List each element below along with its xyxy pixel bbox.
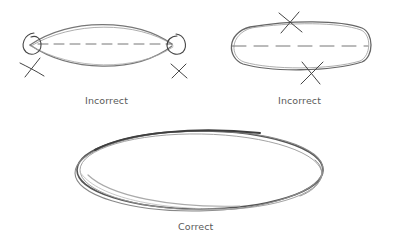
caption-incorrect-pointed: Incorrect — [85, 95, 128, 106]
panel-pointed-ends — [20, 25, 187, 78]
panel-smooth-ellipse — [74, 129, 323, 213]
x-mark-right-icon — [171, 64, 187, 78]
caption-correct: Correct — [178, 221, 213, 232]
diagram-canvas: Incorrect Incorrect Correct — [0, 0, 394, 240]
x-mark-left-icon — [20, 58, 44, 77]
lens-outline — [30, 25, 173, 67]
panel-flat-sides — [231, 12, 371, 84]
caption-incorrect-flat: Incorrect — [278, 95, 321, 106]
x-mark-bottom-icon — [301, 62, 323, 84]
